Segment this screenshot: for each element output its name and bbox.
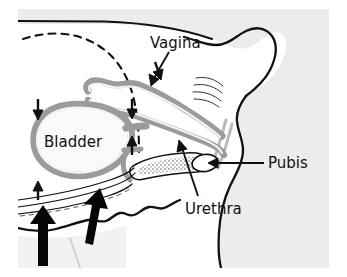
label-pubis: Pubis — [268, 154, 308, 172]
label-urethra: Urethra — [185, 200, 242, 218]
anatomical-diagram-figure: Vagina Bladder Pubis Urethra — [0, 0, 347, 277]
diagram-canvas: Vagina Bladder Pubis Urethra — [0, 0, 347, 277]
label-bladder: Bladder — [44, 133, 103, 151]
label-vagina: Vagina — [150, 34, 201, 52]
bladder-neck — [126, 126, 146, 128]
